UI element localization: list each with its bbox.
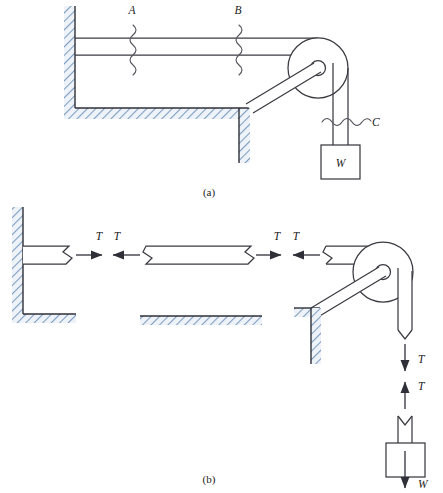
weight-block-a: W bbox=[321, 145, 360, 179]
ground-support-b-middle bbox=[140, 316, 262, 325]
section-label-B: B bbox=[234, 4, 241, 16]
weight-label-b: W bbox=[418, 478, 429, 490]
wall-support-a bbox=[64, 6, 75, 119]
cord-stub-b bbox=[398, 268, 412, 339]
caption-panel-a: (a) bbox=[203, 186, 216, 199]
caption-panel-b: (b) bbox=[203, 473, 216, 486]
rod-segment-middle-b bbox=[143, 246, 254, 264]
rod-segment-left-b bbox=[23, 246, 72, 264]
figure-canvas: A B C bbox=[0, 0, 443, 493]
section-label-C: C bbox=[372, 116, 380, 128]
weight-label-a: W bbox=[336, 157, 347, 169]
section-label-A: A bbox=[127, 4, 136, 16]
pulley-a bbox=[288, 38, 348, 98]
